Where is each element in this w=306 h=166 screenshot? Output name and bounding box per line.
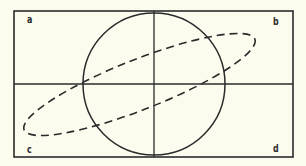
corner-label-d: d [273,143,279,154]
diagram-figure: a b c d [0,0,306,166]
corner-label-a: a [27,14,32,25]
corner-label-b: b [273,16,279,27]
corner-label-c: c [27,144,32,155]
diagram-canvas [0,0,306,166]
